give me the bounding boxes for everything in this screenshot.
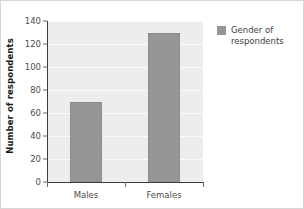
gridline: [47, 21, 203, 22]
y-tick-label: 100: [25, 62, 41, 72]
y-axis-line: [47, 21, 48, 183]
x-tick-mark: [125, 182, 126, 187]
legend-swatch-gender-of-respondents: [217, 26, 226, 35]
x-tick-label-females: Females: [146, 190, 181, 200]
x-axis-tick-labels: MalesFemales: [47, 182, 204, 209]
x-tick-mark: [203, 182, 204, 187]
y-axis-tick-labels: 020406080100120140: [19, 1, 47, 209]
bar-males: [70, 102, 102, 183]
x-tick-mark: [47, 182, 48, 187]
bar-chart-figure: Number of respondents 020406080100120140…: [0, 0, 304, 209]
y-axis-title: Number of respondents: [1, 1, 19, 191]
y-tick-label: 60: [30, 108, 41, 118]
legend-label-gender-of-respondents: Gender of respondents: [231, 25, 293, 47]
bar-females: [148, 33, 180, 183]
y-axis-title-text: Number of respondents: [5, 38, 15, 154]
y-tick-label: 120: [25, 39, 41, 49]
y-tick-label: 140: [25, 16, 41, 26]
y-tick-label: 0: [36, 177, 41, 187]
y-tick-label: 20: [30, 154, 41, 164]
x-tick-label-males: Males: [74, 190, 99, 200]
plot-area: [47, 21, 203, 182]
y-tick-label: 40: [30, 131, 41, 141]
y-tick-label: 80: [30, 85, 41, 95]
chart-legend: Gender of respondents: [217, 25, 293, 47]
